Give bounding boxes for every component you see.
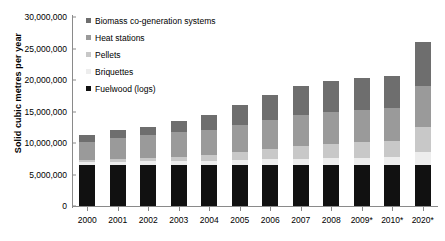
- stacked-bar-chart: Solid cubic metres per year 30,000,00025…: [0, 0, 445, 241]
- bar-segment: [201, 115, 217, 130]
- x-tick-label: 2003: [169, 215, 188, 225]
- legend-swatch-icon: [86, 69, 91, 74]
- bar-segment: [415, 127, 431, 152]
- x-tick-mark: [270, 207, 275, 211]
- x-tick-mark: [179, 207, 184, 211]
- bar-segment: [384, 157, 400, 165]
- bar-segment: [79, 165, 95, 206]
- bar-segment: [323, 112, 339, 144]
- x-tick-mark: [118, 207, 123, 211]
- bar-2000: [79, 135, 95, 206]
- legend-swatch-icon: [86, 35, 91, 40]
- bar-segment: [262, 120, 278, 150]
- legend-label: Heat stations: [95, 33, 145, 43]
- bar-segment: [384, 141, 400, 157]
- bar-segment: [79, 142, 95, 160]
- bar-segment: [415, 42, 431, 86]
- legend-label: Fuelwood (logs): [95, 84, 155, 94]
- bar-segment: [110, 138, 126, 159]
- bar-2006: [262, 95, 278, 206]
- legend-item: Heat stations: [86, 29, 215, 46]
- bar-segment: [262, 165, 278, 206]
- x-tick-mark: [423, 207, 428, 211]
- y-tick-label: 25,000,000: [24, 44, 67, 54]
- bar-segment: [354, 142, 370, 157]
- bar-2010-proj: [384, 76, 400, 206]
- x-tick-label: 2004: [200, 215, 219, 225]
- y-axis-title: Solid cubic metres per year: [13, 13, 23, 173]
- x-tick-label: 2005: [230, 215, 249, 225]
- bar-segment: [232, 105, 248, 125]
- x-tick-mark: [209, 207, 214, 211]
- bar-segment: [171, 165, 187, 206]
- y-tick-label: 5,000,000: [29, 170, 67, 180]
- bar-segment: [140, 127, 156, 136]
- x-tick-label: 2010*: [381, 215, 403, 225]
- bar-segment: [262, 95, 278, 120]
- x-tick-mark: [87, 207, 92, 211]
- bar-segment: [140, 165, 156, 206]
- bar-segment: [110, 130, 126, 138]
- bar-segment: [262, 149, 278, 159]
- legend-label: Briquettes: [95, 67, 133, 77]
- y-tick-label: 10,000,000: [24, 138, 67, 148]
- y-tick-label: 0: [62, 201, 67, 211]
- bar-segment: [384, 76, 400, 109]
- chart-legend: Biomass co-generation systemsHeat statio…: [86, 12, 215, 97]
- legend-item: Briquettes: [86, 63, 215, 80]
- bar-segment: [293, 86, 309, 114]
- bar-segment: [232, 165, 248, 206]
- bar-segment: [110, 165, 126, 206]
- x-tick-label: 2009*: [351, 215, 373, 225]
- bar-segment: [354, 165, 370, 206]
- bar-segment: [354, 78, 370, 110]
- x-tick-mark: [240, 207, 245, 211]
- bar-2002: [140, 127, 156, 206]
- bar-2009-proj: [354, 78, 370, 206]
- bar-segment: [140, 135, 156, 158]
- x-tick-mark: [362, 207, 367, 211]
- bar-segment: [293, 146, 309, 159]
- x-tick-label: 2007: [291, 215, 310, 225]
- legend-label: Biomass co-generation systems: [95, 16, 215, 26]
- bar-segment: [201, 165, 217, 206]
- bar-segment: [415, 165, 431, 206]
- bar-2007: [293, 86, 309, 206]
- bar-segment: [354, 158, 370, 166]
- y-tick-label: 30,000,000: [24, 12, 67, 22]
- bar-segment: [323, 81, 339, 112]
- x-axis-line: [72, 206, 438, 207]
- x-tick-label: 2020*: [412, 215, 434, 225]
- x-tick-label: 2008: [322, 215, 341, 225]
- bar-segment: [384, 108, 400, 141]
- bar-2020-proj: [415, 42, 431, 206]
- bar-segment: [293, 115, 309, 147]
- legend-swatch-icon: [86, 18, 91, 23]
- legend-item: Biomass co-generation systems: [86, 12, 215, 29]
- legend-swatch-icon: [86, 52, 91, 57]
- y-tick-label: 15,000,000: [24, 107, 67, 117]
- bar-2003: [171, 121, 187, 206]
- bar-segment: [415, 86, 431, 127]
- x-tick-label: 2006: [261, 215, 280, 225]
- x-tick-mark: [331, 207, 336, 211]
- bar-2005: [232, 105, 248, 206]
- bar-segment: [201, 130, 217, 155]
- bar-2008: [323, 81, 339, 206]
- bar-segment: [293, 165, 309, 206]
- bar-segment: [323, 158, 339, 165]
- legend-label: Pellets: [95, 50, 121, 60]
- x-tick-mark: [301, 207, 306, 211]
- legend-item: Pellets: [86, 46, 215, 63]
- bar-segment: [354, 110, 370, 143]
- bar-segment: [232, 152, 248, 160]
- x-tick-mark: [392, 207, 397, 211]
- y-tick-label: 20,000,000: [24, 75, 67, 85]
- bar-2001: [110, 130, 126, 206]
- bar-2004: [201, 115, 217, 206]
- bar-segment: [415, 152, 431, 165]
- bar-segment: [232, 125, 248, 153]
- x-tick-mark: [148, 207, 153, 211]
- x-tick-label: 2002: [139, 215, 158, 225]
- bar-segment: [323, 165, 339, 206]
